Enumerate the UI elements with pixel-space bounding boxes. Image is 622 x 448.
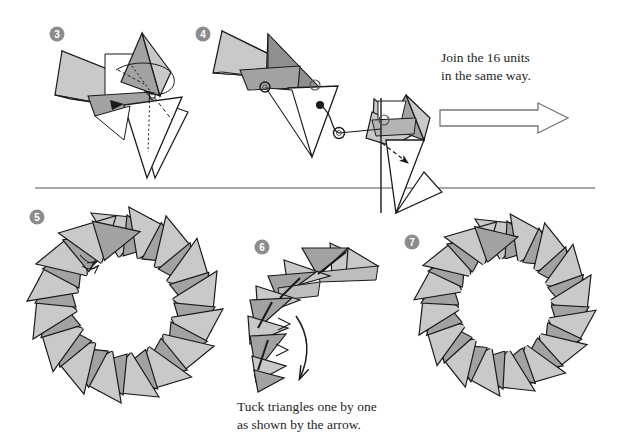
step-badge-4-label: 4	[200, 29, 206, 40]
join-caption-line-1: Join the 16 units	[441, 50, 530, 65]
tuck-direction-arrow	[296, 316, 307, 378]
step-3-figure	[55, 33, 188, 178]
ring7-inner-hole	[459, 259, 551, 351]
step6-tuck-chevron-2	[276, 344, 288, 356]
tuck-caption-line-1: Tuck triangles one by one	[237, 399, 377, 414]
step-badge-7: 7	[405, 235, 420, 250]
step-badge-6: 6	[255, 240, 270, 255]
step-badge-3: 3	[50, 27, 65, 42]
join-caption-line-2: in the same way.	[441, 68, 531, 83]
tuck-caption: Tuck triangles one by oneas shown by the…	[237, 398, 377, 434]
step-badge-6-label: 6	[259, 242, 265, 253]
step-badge-7-label: 7	[409, 237, 415, 248]
step-badge-4: 4	[196, 27, 211, 42]
step-5-ring	[24, 204, 226, 406]
join-caption: Join the 16 unitsin the same way.	[441, 49, 531, 85]
big-right-arrow	[440, 103, 568, 133]
step-6-figure	[248, 243, 378, 392]
step-4-figure	[213, 31, 442, 213]
step-7-ring	[411, 211, 599, 399]
origami-diagram-page: 3	[0, 0, 622, 448]
step-badge-3-label: 3	[54, 29, 60, 40]
step-badge-5-label: 5	[34, 212, 40, 223]
step-badge-5: 5	[30, 210, 45, 225]
ring5-inner-hole	[77, 257, 173, 353]
tuck-caption-line-2: as shown by the arrow.	[237, 417, 361, 432]
